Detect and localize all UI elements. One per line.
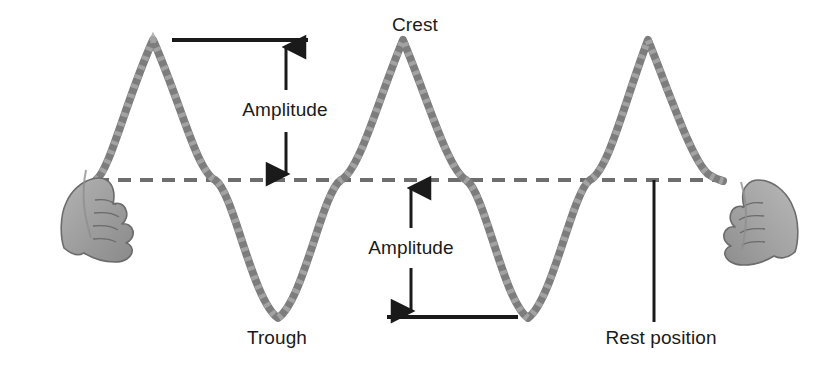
amplitude-lower-label: Amplitude (368, 237, 453, 259)
wave-diagram-canvas (0, 0, 823, 368)
right-hand-icon (724, 180, 798, 265)
left-hand-icon (61, 170, 133, 262)
rest-position-label: Rest position (605, 327, 716, 349)
wave-diagram: Crest Trough Amplitude Amplitude Rest po… (0, 0, 823, 368)
crest-label: Crest (392, 14, 438, 36)
trough-label: Trough (247, 327, 307, 349)
amplitude-upper-label: Amplitude (242, 99, 327, 121)
